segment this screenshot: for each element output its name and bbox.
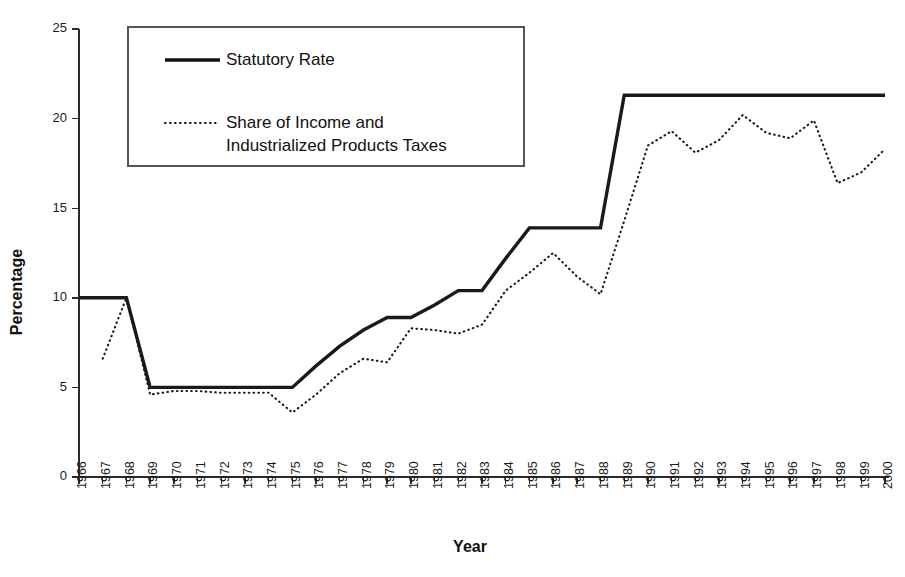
x-tick-label: 1993 [715, 461, 729, 489]
x-tick-label: 1998 [834, 461, 848, 489]
x-tick-group: 1966196719681969197019711972197319741975… [75, 461, 895, 489]
y-tick-label: 25 [53, 20, 67, 35]
line-chart-svg: 0510152025 Percentage 196619671968196919… [0, 0, 905, 577]
x-tick-label: 1984 [502, 461, 516, 489]
x-tick-label: 1994 [739, 461, 753, 489]
x-tick-label: 1977 [336, 461, 350, 489]
x-tick-label: 1970 [170, 461, 184, 489]
x-tick-label: 1979 [383, 461, 397, 489]
x-tick-label: 1989 [621, 461, 635, 489]
x-tick-label: 1966 [75, 461, 89, 489]
x-axis-title: Year [453, 538, 487, 555]
x-tick-label: 1986 [549, 461, 563, 489]
y-axis-group: 0510152025 Percentage [8, 20, 79, 483]
legend: Statutory Rate Share of Income and Indus… [128, 27, 524, 166]
y-tick-group: 0510152025 [53, 20, 79, 483]
y-tick-label: 10 [53, 289, 67, 304]
x-tick-label: 1983 [478, 461, 492, 489]
y-axis-title: Percentage [8, 249, 25, 335]
legend-label-statutory-rate: Statutory Rate [226, 50, 335, 69]
y-tick-label: 15 [53, 200, 67, 215]
x-tick-label: 1991 [668, 461, 682, 489]
x-tick-label: 1981 [431, 461, 445, 489]
chart-figure: 0510152025 Percentage 196619671968196919… [0, 0, 905, 577]
x-tick-label: 1997 [810, 461, 824, 489]
x-tick-label: 1999 [858, 461, 872, 489]
x-tick-label: 1982 [455, 461, 469, 489]
x-tick-label: 1996 [786, 461, 800, 489]
x-tick-label: 1976 [312, 461, 326, 489]
x-tick-label: 1985 [526, 461, 540, 489]
x-tick-label: 1987 [573, 461, 587, 489]
legend-label-share-of-income-line1: Share of Income and [226, 113, 384, 132]
y-tick-label: 5 [60, 379, 67, 394]
x-tick-label: 1980 [407, 461, 421, 489]
x-tick-label: 1974 [265, 461, 279, 489]
legend-label-share-of-income-line2: Industrialized Products Taxes [226, 136, 447, 155]
y-tick-label: 0 [60, 468, 67, 483]
x-tick-label: 1995 [763, 461, 777, 489]
y-tick-label: 20 [53, 110, 67, 125]
x-tick-label: 1968 [123, 461, 137, 489]
x-tick-label: 1973 [241, 461, 255, 489]
x-tick-label: 1992 [692, 461, 706, 489]
x-axis-group: 1966196719681969197019711972197319741975… [75, 461, 895, 555]
x-tick-label: 1971 [194, 461, 208, 489]
x-tick-label: 2000 [881, 461, 895, 489]
x-tick-label: 1990 [644, 461, 658, 489]
x-tick-label: 1967 [99, 461, 113, 489]
x-tick-label: 1969 [146, 461, 160, 489]
x-tick-label: 1978 [360, 461, 374, 489]
x-tick-label: 1988 [597, 461, 611, 489]
x-tick-label: 1975 [289, 461, 303, 489]
x-tick-label: 1972 [218, 461, 232, 489]
